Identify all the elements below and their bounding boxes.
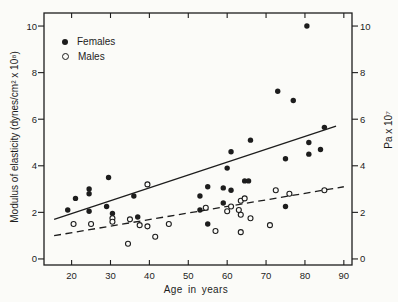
point-males — [126, 241, 131, 246]
point-males — [203, 205, 208, 210]
point-females — [106, 175, 111, 180]
point-males — [145, 224, 150, 229]
point-males — [137, 223, 142, 228]
scatter-figure: 203040506070809002468100246810 Females M… — [0, 0, 398, 302]
x-tick-label: 70 — [261, 270, 272, 281]
point-females — [246, 178, 251, 183]
point-females — [283, 156, 288, 161]
point-females — [322, 125, 327, 130]
point-females — [104, 204, 109, 209]
y-tick-label-left: 8 — [32, 67, 37, 78]
point-females — [318, 147, 323, 152]
point-females — [228, 149, 233, 154]
point-females — [135, 214, 140, 219]
point-females — [131, 193, 136, 198]
point-males — [71, 222, 76, 227]
point-females — [228, 188, 233, 193]
x-tick-label: 90 — [339, 270, 350, 281]
point-males — [127, 217, 132, 222]
y-tick-label-left: 0 — [32, 253, 37, 264]
point-males — [242, 196, 247, 201]
point-females — [65, 207, 70, 212]
legend-item-males: Males — [62, 51, 115, 62]
point-females — [197, 207, 202, 212]
legend-item-females: Females — [62, 36, 115, 47]
x-axis-label: Age in years — [164, 284, 228, 295]
y-tick-label-left: 4 — [32, 160, 37, 171]
y-tick-label-left: 10 — [26, 21, 37, 32]
point-females — [275, 89, 280, 94]
point-males — [238, 212, 243, 217]
y-tick-label-left: 6 — [32, 114, 37, 125]
point-females — [221, 200, 226, 205]
point-females — [224, 165, 229, 170]
filled-circle-icon — [62, 39, 68, 45]
point-females — [248, 137, 253, 142]
y-tick-label-left: 2 — [32, 207, 37, 218]
point-males — [166, 222, 171, 227]
point-males — [153, 234, 158, 239]
point-females — [283, 204, 288, 209]
point-males — [225, 209, 230, 214]
point-males — [89, 222, 94, 227]
y-tick-label-right: 8 — [360, 67, 365, 78]
y-axis-label-right: Pa x 10⁷ — [383, 111, 394, 149]
legend-label-males: Males — [78, 51, 105, 62]
open-circle-icon — [62, 53, 69, 60]
point-males — [248, 216, 253, 221]
x-tick-label: 20 — [66, 270, 77, 281]
y-tick-label-right: 2 — [360, 207, 365, 218]
y-tick-label-right: 10 — [360, 21, 371, 32]
x-tick-label: 80 — [300, 270, 311, 281]
point-males — [273, 188, 278, 193]
scatter-plot-canvas: 203040506070809002468100246810 — [0, 0, 398, 302]
point-males — [145, 182, 150, 187]
point-females — [291, 98, 296, 103]
point-females — [86, 191, 91, 196]
point-females — [221, 185, 226, 190]
x-tick-label: 40 — [144, 270, 155, 281]
legend: Females Males — [62, 36, 115, 62]
point-females — [86, 186, 91, 191]
point-females — [73, 196, 78, 201]
x-tick-label: 50 — [183, 270, 194, 281]
legend-label-females: Females — [77, 36, 115, 47]
point-males — [238, 230, 243, 235]
point-females — [197, 193, 202, 198]
point-females — [306, 140, 311, 145]
point-females — [205, 184, 210, 189]
point-females — [304, 23, 309, 28]
trend-line-females — [54, 126, 336, 219]
point-males — [229, 204, 234, 209]
point-females — [306, 151, 311, 156]
x-tick-label: 60 — [222, 270, 233, 281]
point-males — [322, 188, 327, 193]
x-tick-label: 30 — [105, 270, 116, 281]
point-males — [287, 191, 292, 196]
y-axis-label-left: Modulus of elasticity (dynes/cm² x 10⁸) — [9, 51, 20, 223]
point-females — [205, 221, 210, 226]
point-males — [213, 228, 218, 233]
y-tick-label-right: 0 — [360, 253, 365, 264]
point-males — [267, 223, 272, 228]
y-tick-label-right: 4 — [360, 160, 365, 171]
point-males — [110, 219, 115, 224]
y-tick-label-right: 6 — [360, 114, 365, 125]
point-females — [86, 208, 91, 213]
